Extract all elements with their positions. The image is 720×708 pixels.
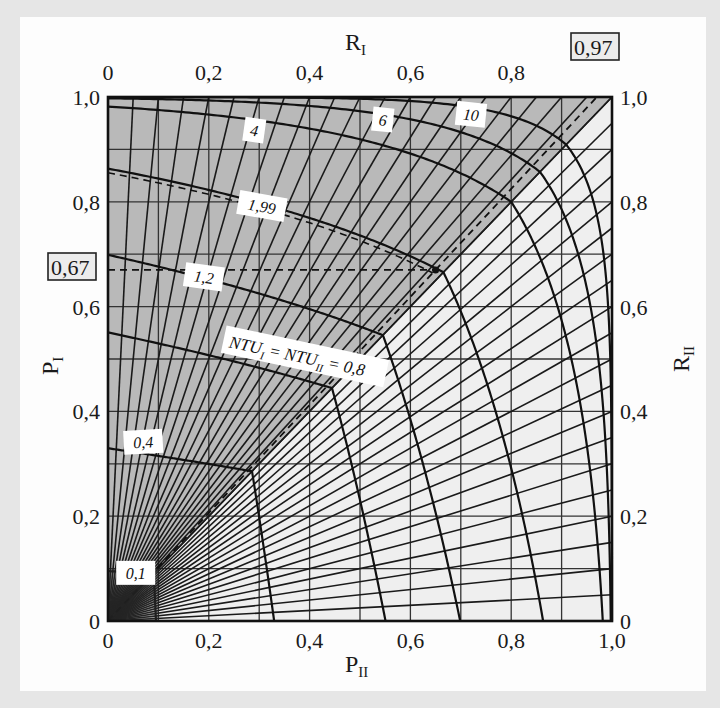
right-tick-label: 0,2 <box>620 504 648 529</box>
ntu-label: 0,4 <box>123 429 163 455</box>
svg-text:0,97: 0,97 <box>574 35 613 60</box>
y-tick-label: 0 <box>89 609 100 634</box>
ntu-label: 10 <box>455 101 487 128</box>
x-tick-label: 0,8 <box>497 628 525 653</box>
ntu-label-text: 0,4 <box>133 433 154 451</box>
right-tick-label: 0,8 <box>620 190 648 215</box>
right-tick-label: 1,0 <box>620 85 648 110</box>
ntu-label: 6 <box>371 107 394 133</box>
operating-point-marker <box>432 266 439 273</box>
top-tick-label: 0,4 <box>296 60 324 85</box>
right-tick-label: 0,6 <box>620 295 648 320</box>
right-tick-label: 0,4 <box>620 399 648 424</box>
y-tick-label: 0,4 <box>73 399 101 424</box>
ntu-label: 0,1 <box>116 561 155 585</box>
svg-text:0,67: 0,67 <box>51 255 90 280</box>
p-ntu-r-chart: 00,20,40,60,81,000,20,40,60,800,20,40,60… <box>0 0 720 708</box>
top-axis-label: RI <box>345 29 366 58</box>
x-tick-label: 0,4 <box>296 628 324 653</box>
y-tick-label: 0,8 <box>73 190 101 215</box>
svg-text:RII: RII <box>668 346 697 372</box>
boxed-r-value: 0,97 <box>571 33 619 60</box>
y-tick-label: 1,0 <box>73 85 101 110</box>
y-axis-label: PI <box>37 357 66 375</box>
boxed-p-value: 0,67 <box>48 253 96 280</box>
ntu-label-text: 0,1 <box>126 565 146 582</box>
ntu-label: 4 <box>242 117 266 144</box>
x-axis-label: PII <box>345 651 368 680</box>
top-tick-label: 0,6 <box>397 60 425 85</box>
right-axis-label: RII <box>668 346 697 372</box>
y-tick-label: 0,6 <box>73 295 101 320</box>
top-tick-label: 0,8 <box>497 60 525 85</box>
svg-text:PI: PI <box>37 357 66 375</box>
top-tick-label: 0,2 <box>195 60 223 85</box>
x-tick-label: 0,2 <box>195 628 223 653</box>
right-tick-label: 0 <box>620 609 631 634</box>
top-tick-label: 0 <box>103 60 114 85</box>
y-tick-label: 0,2 <box>73 504 101 529</box>
x-tick-label: 0,6 <box>397 628 425 653</box>
x-tick-label: 0 <box>103 628 114 653</box>
ntu-label-text: 10 <box>462 106 480 125</box>
ntu-label-text: 1,2 <box>193 267 215 287</box>
